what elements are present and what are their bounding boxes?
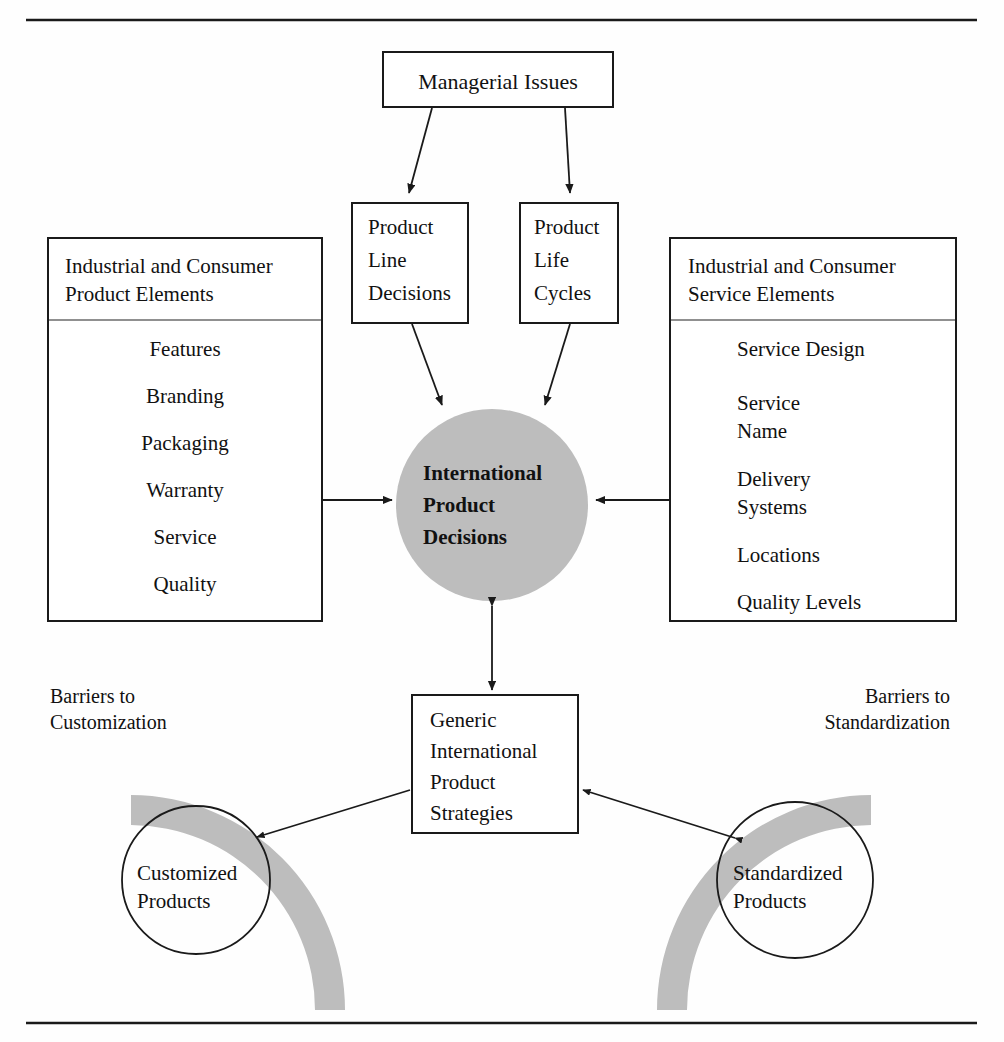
hub-label-line-2: Product [423,491,495,519]
hub-label-line-3: Decisions [423,523,507,551]
customized-products-line-2: Products [137,888,211,916]
arrow-product-line-to-hub [412,324,442,405]
left-panel-item-packaging: Packaging [48,430,322,458]
strategies-line-4: Strategies [430,800,513,828]
left-panel-header-line-2: Product Elements [65,281,214,308]
barriers-to-customization-line-2: Customization [50,709,167,735]
arrow-life-cycles-to-hub [545,324,570,405]
right-panel-header-line-2: Service Elements [688,281,834,308]
product-life-cycles-line-2: Life [534,247,569,275]
right-panel-item-delivery-systems: Delivery Systems [737,466,810,521]
arrow-managerial-to-product-line [409,108,432,193]
left-panel-item-warranty: Warranty [48,477,322,505]
barriers-to-customization-line-1: Barriers to [50,683,135,709]
product-line-decisions-line-3: Decisions [368,280,451,308]
right-panel-item-service-name: Service Name [737,390,800,445]
standardized-products-line-1: Standardized [733,860,843,888]
product-line-decisions-line-2: Line [368,247,406,275]
product-life-cycles-line-3: Cycles [534,280,591,308]
left-panel-item-branding: Branding [48,383,322,411]
barriers-to-standardization-line-1: Barriers to [705,683,950,709]
right-panel-item-service-design: Service Design [737,336,865,364]
strategies-line-1: Generic [430,707,496,735]
hub-label-line-1: International [423,459,542,487]
right-panel-item-quality-levels: Quality Levels [737,589,861,617]
strategies-line-3: Product [430,769,495,797]
standardized-products-line-2: Products [733,888,807,916]
left-panel-item-quality: Quality [48,571,322,599]
right-panel-header-line-1: Industrial and Consumer [688,253,896,280]
arrow-strategies-to-customized [257,790,410,837]
strategies-line-2: International [430,738,537,766]
customized-products-line-1: Customized [137,860,237,888]
arrow-standardized-to-strategies [583,790,735,838]
barriers-to-standardization-line-2: Standardization [705,709,950,735]
product-line-decisions-line-1: Product [368,214,433,242]
arrow-managerial-to-life-cycles [565,108,570,193]
product-life-cycles-line-1: Product [534,214,599,242]
left-panel-item-features: Features [48,336,322,364]
diagram-canvas: Managerial Issues Product Line Decisions… [0,0,1004,1042]
left-panel-item-service: Service [48,524,322,552]
right-panel-item-locations: Locations [737,542,820,570]
left-panel-header-line-1: Industrial and Consumer [65,253,273,280]
managerial-issues-label: Managerial Issues [383,67,613,96]
